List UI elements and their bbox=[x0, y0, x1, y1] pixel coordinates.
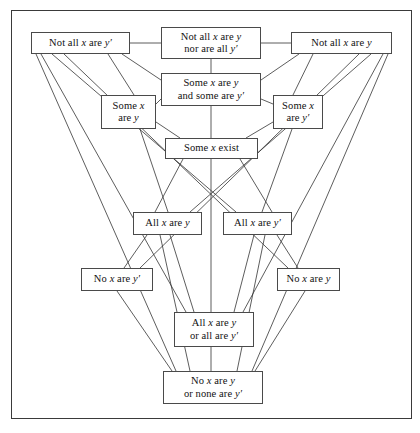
node-label: No x are y bbox=[287, 273, 331, 285]
node-some-x-are-y-and-some-are-y-prime[interactable]: Some x are yand some are y′ bbox=[161, 73, 261, 106]
node-not-all-x-are-y-nor-all-y-prime[interactable]: Not all x are ynor are all y′ bbox=[161, 27, 261, 59]
node-label: Some x exist bbox=[184, 142, 239, 154]
node-not-all-x-are-y-prime[interactable]: Not all x are y′ bbox=[31, 32, 130, 54]
node-label: Not all x are y bbox=[311, 37, 371, 49]
node-no-x-are-y[interactable]: No x are y bbox=[277, 268, 340, 291]
node-some-x-are-y-prime[interactable]: Some xare y′ bbox=[273, 95, 323, 129]
node-some-x-exist[interactable]: Some x exist bbox=[165, 138, 258, 159]
node-label: All x are y′ bbox=[234, 217, 281, 229]
node-no-x-are-y-or-none-are-y-prime[interactable]: No x are yor none are y′ bbox=[163, 371, 263, 404]
node-label: Not all x are y′ bbox=[49, 37, 112, 49]
node-label: Some xare y bbox=[113, 100, 145, 125]
node-all-x-are-y-prime[interactable]: All x are y′ bbox=[223, 212, 292, 235]
diagram-frame bbox=[11, 10, 412, 419]
node-not-all-x-are-y[interactable]: Not all x are y bbox=[291, 32, 392, 54]
node-label: No x are yor none are y′ bbox=[184, 375, 242, 400]
node-label: Some xare y′ bbox=[282, 100, 314, 125]
node-no-x-are-y-prime[interactable]: No x are y′ bbox=[81, 268, 153, 291]
node-label: No x are y′ bbox=[94, 273, 140, 285]
node-label: Not all x are ynor are all y′ bbox=[181, 31, 241, 56]
node-some-x-are-y[interactable]: Some xare y bbox=[101, 95, 156, 129]
proposition-lattice-diagram: Not all x are y′ Not all x are ynor are … bbox=[0, 0, 420, 433]
node-label: All x are y bbox=[145, 217, 190, 229]
node-label: Some x are yand some are y′ bbox=[178, 77, 245, 102]
node-all-x-are-y[interactable]: All x are y bbox=[133, 212, 202, 235]
node-all-x-are-y-or-all-are-y-prime[interactable]: All x are yor all are y′ bbox=[174, 312, 254, 347]
node-label: All x are yor all are y′ bbox=[190, 317, 238, 342]
